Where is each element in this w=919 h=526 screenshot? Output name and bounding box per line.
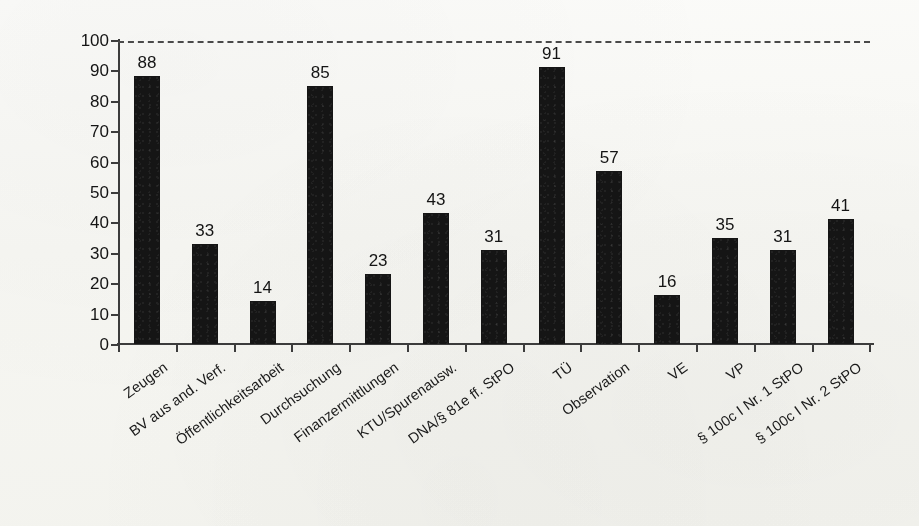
chart-page: Anzahl Verfahren 0102030405060708090100 … [0, 0, 919, 526]
bar-value-label: 35 [715, 215, 734, 235]
y-axis-tick-label: 90 [90, 61, 109, 81]
y-axis-tick-label: 70 [90, 122, 109, 142]
x-axis-category-label: Öffentlichkeitsarbeit [172, 359, 286, 448]
y-axis-tick [111, 283, 118, 285]
y-axis-tick-label: 100 [81, 31, 109, 51]
bar [423, 213, 449, 344]
y-axis-tick [111, 344, 118, 346]
x-axis-tick [869, 345, 871, 352]
y-axis-tick-label: 30 [90, 244, 109, 264]
x-axis-category-label: VE [665, 359, 690, 383]
bar [712, 238, 738, 344]
plot-area: 0102030405060708090100 88331485234331915… [118, 41, 873, 345]
bar-value-label: 33 [195, 221, 214, 241]
y-axis-tick [111, 162, 118, 164]
bar [539, 67, 565, 344]
reference-line-100 [118, 41, 870, 43]
x-axis-tick [812, 345, 814, 352]
bar-value-label: 14 [253, 278, 272, 298]
x-axis-category-label: Finanzermittlungen [291, 359, 402, 445]
bar-value-label: 85 [311, 63, 330, 83]
x-axis-tick [176, 345, 178, 352]
x-axis-category-label: Zeugen [121, 359, 171, 401]
x-axis-tick [638, 345, 640, 352]
y-axis-tick [111, 314, 118, 316]
x-axis-tick [465, 345, 467, 352]
bar-value-label: 91 [542, 44, 561, 64]
bar [134, 76, 160, 344]
bar-value-label: 31 [773, 227, 792, 247]
bar [770, 250, 796, 344]
x-axis-tick [234, 345, 236, 352]
y-axis-tick-label: 60 [90, 153, 109, 173]
y-axis-tick [111, 101, 118, 103]
bar-value-label: 31 [484, 227, 503, 247]
y-axis-tick [111, 192, 118, 194]
x-axis-category-label: § 100c I Nr. 1 StPO [694, 359, 806, 446]
y-axis-tick [111, 253, 118, 255]
bar [307, 86, 333, 344]
y-axis-tick-label: 40 [90, 213, 109, 233]
x-axis-tick [754, 345, 756, 352]
x-axis-category-label: VP [723, 359, 748, 383]
bar-value-label: 57 [600, 148, 619, 168]
x-axis-category-label: § 100c I Nr. 2 StPO [752, 359, 864, 446]
y-axis-tick-label: 50 [90, 183, 109, 203]
bar-value-label: 43 [426, 190, 445, 210]
x-axis-tick [407, 345, 409, 352]
x-axis-tick [118, 345, 120, 352]
y-axis-tick-label: 20 [90, 274, 109, 294]
bar [192, 244, 218, 344]
bar [250, 301, 276, 344]
x-axis-tick [349, 345, 351, 352]
y-axis-tick-label: 0 [100, 335, 109, 355]
bar-value-label: 88 [137, 53, 156, 73]
y-axis-tick [111, 70, 118, 72]
bar [654, 295, 680, 344]
y-axis-tick [111, 40, 118, 42]
x-axis-tick [291, 345, 293, 352]
y-axis-tick [111, 131, 118, 133]
bar [596, 171, 622, 344]
bar [365, 274, 391, 344]
x-axis-category-label: BV aus and. Verf. [126, 359, 228, 439]
y-axis-tick [111, 222, 118, 224]
bar-value-label: 16 [658, 272, 677, 292]
x-axis-category-label: DNA/§ 81e ff. StPO [405, 359, 517, 447]
bar [828, 219, 854, 344]
x-axis-tick [523, 345, 525, 352]
x-axis-category-label: TÜ [550, 359, 575, 383]
bar-value-label: 23 [369, 251, 388, 271]
y-axis-tick-label: 80 [90, 92, 109, 112]
x-axis-tick [696, 345, 698, 352]
bar [481, 250, 507, 344]
x-axis-tick [580, 345, 582, 352]
bar-value-label: 41 [831, 196, 850, 216]
y-axis-tick-label: 10 [90, 305, 109, 325]
x-axis-category-label: KTU/Spurenausw. [354, 359, 459, 442]
y-axis-line [118, 39, 120, 347]
